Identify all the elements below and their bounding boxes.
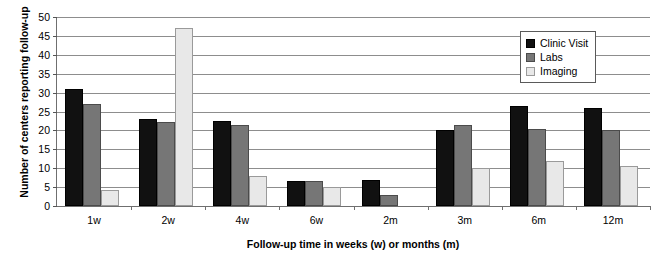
bar — [83, 104, 101, 206]
y-tick-label: 15 — [38, 144, 50, 155]
chart-legend: Clinic VisitLabsImaging — [520, 31, 596, 83]
y-tick-label: 25 — [38, 106, 50, 117]
y-tick-label: 30 — [38, 87, 50, 98]
bar — [528, 129, 546, 206]
bar — [305, 181, 323, 206]
x-tick-label: 4w — [236, 214, 249, 226]
bar — [213, 121, 231, 206]
x-tick-label: 3m — [457, 214, 472, 226]
bar — [380, 195, 398, 206]
legend-label: Imaging — [540, 66, 577, 77]
bar — [101, 190, 119, 206]
x-tick-mark — [205, 206, 206, 210]
bar — [65, 89, 83, 206]
bar — [510, 106, 528, 206]
bar — [602, 130, 620, 206]
y-tick-label: 0 — [44, 201, 50, 212]
x-tick-mark — [354, 206, 355, 210]
bar — [287, 181, 305, 206]
bar-group: 4w — [205, 17, 279, 206]
bar-group: 6w — [279, 17, 353, 206]
bar — [157, 122, 175, 206]
x-tick-label: 2w — [161, 214, 174, 226]
bar — [620, 166, 638, 206]
x-tick-mark — [650, 206, 651, 210]
bar — [362, 180, 380, 206]
legend-item: Labs — [526, 50, 588, 64]
bar — [472, 168, 490, 206]
legend-item: Clinic Visit — [526, 36, 588, 50]
bar — [584, 108, 602, 206]
y-tick-label: 10 — [38, 163, 50, 174]
bar-chart: Number of centers reporting follow-up 05… — [0, 0, 661, 265]
x-tick-label: 1w — [87, 214, 100, 226]
bar — [323, 187, 341, 206]
y-axis-title: Number of centers reporting follow-up — [18, 2, 30, 202]
x-tick-mark — [428, 206, 429, 210]
bar-group: 3m — [428, 17, 502, 206]
x-tick-mark — [502, 206, 503, 210]
bar-group: 2w — [131, 17, 205, 206]
y-tick-mark — [53, 206, 57, 207]
legend-swatch-icon — [526, 39, 535, 48]
x-tick-label: 12m — [603, 214, 623, 226]
y-tick-label: 40 — [38, 50, 50, 61]
legend-swatch-icon — [526, 67, 535, 76]
x-tick-mark — [279, 206, 280, 210]
legend-label: Clinic Visit — [540, 38, 588, 49]
bar — [546, 161, 564, 206]
bar — [231, 125, 249, 206]
y-tick-label: 20 — [38, 125, 50, 136]
y-tick-label: 45 — [38, 31, 50, 42]
bar — [249, 176, 267, 206]
legend-label: Labs — [540, 52, 563, 63]
x-tick-mark — [131, 206, 132, 210]
x-tick-label: 2m — [383, 214, 398, 226]
y-tick-label: 5 — [44, 182, 50, 193]
legend-swatch-icon — [526, 53, 535, 62]
bar — [175, 28, 193, 206]
x-axis-title: Follow-up time in weeks (w) or months (m… — [56, 238, 650, 250]
y-tick-label: 35 — [38, 68, 50, 79]
y-tick-label: 50 — [38, 12, 50, 23]
bar-group: 1w — [57, 17, 131, 206]
bar-group: 2m — [354, 17, 428, 206]
x-tick-mark — [576, 206, 577, 210]
legend-item: Imaging — [526, 64, 588, 78]
bar — [139, 119, 157, 206]
x-tick-label: 6m — [532, 214, 547, 226]
bar — [436, 130, 454, 206]
x-tick-label: 6w — [310, 214, 323, 226]
bar — [454, 125, 472, 206]
